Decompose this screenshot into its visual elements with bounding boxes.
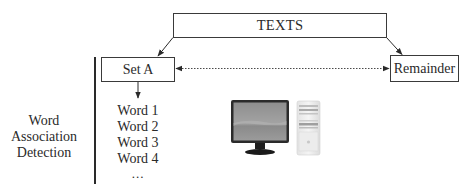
- list-item: Word 3: [100, 135, 176, 151]
- list-item: Word 4: [100, 151, 176, 167]
- desktop-computer-icon: [229, 99, 323, 157]
- arrow-texts-to-remainder: [387, 38, 403, 55]
- arrow-texts-to-set-a: [158, 38, 173, 57]
- word-list: Word 1 Word 2 Word 3 Word 4: [100, 103, 176, 167]
- word-association-detection-label: Word Association Detection: [0, 113, 88, 161]
- remainder-box: Remainder: [390, 55, 459, 82]
- remainder-label: Remainder: [394, 62, 455, 76]
- texts-label: TEXTS: [257, 18, 304, 33]
- computer-tower-icon: [297, 101, 320, 155]
- monitor-icon: [231, 100, 289, 155]
- list-item: Word 2: [100, 119, 176, 135]
- side-label-line-2: Association: [0, 129, 88, 145]
- side-label-line-3: Detection: [0, 145, 88, 161]
- set-a-box: Set A: [101, 57, 175, 82]
- texts-box: TEXTS: [173, 13, 387, 38]
- set-a-label: Set A: [123, 63, 154, 77]
- side-label-line-1: Word: [0, 113, 88, 129]
- vertical-divider: [94, 57, 96, 184]
- list-item: Word 1: [100, 103, 176, 119]
- word-list-ellipsis: ...: [100, 166, 176, 182]
